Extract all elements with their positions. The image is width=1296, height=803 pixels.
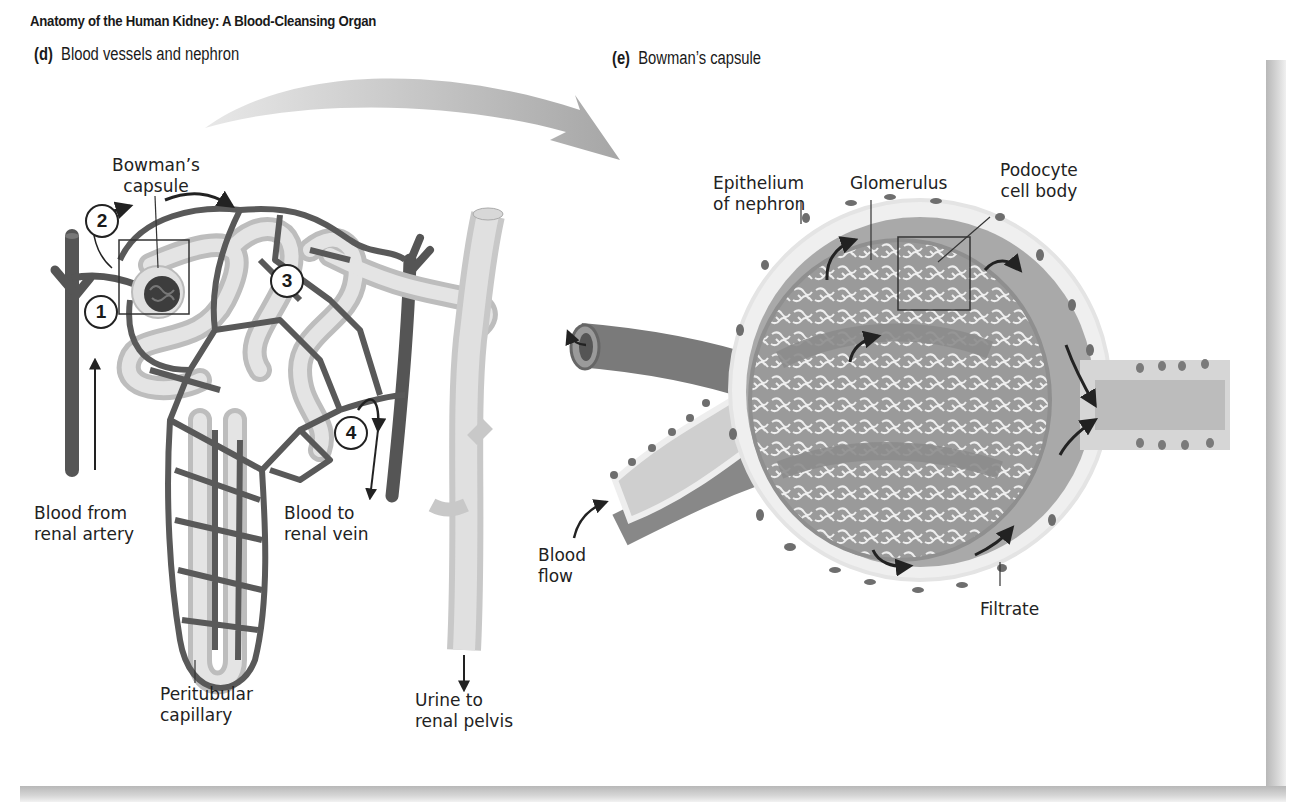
bowmans-capsule-illustration [568, 194, 1230, 593]
label-bowmans-capsule: Bowman’s capsule [112, 155, 200, 197]
kidney-diagram [0, 0, 1266, 786]
label-blood-flow: Blood flow [538, 545, 586, 587]
label-filtrate: Filtrate [980, 599, 1039, 620]
panel-shadow-right [1266, 60, 1286, 800]
label-blood-to-renal-vein: Blood to renal vein [284, 503, 368, 545]
label-glomerulus: Glomerulus [850, 173, 947, 194]
label-blood-from-renal-artery: Blood from renal artery [34, 503, 134, 545]
label-urine-to-renal-pelvis: Urine to renal pelvis [415, 690, 513, 732]
figure-panel: Anatomy of the Human Kidney: A Blood-Cle… [0, 0, 1266, 786]
step-4-badge: 4 [334, 416, 368, 450]
step-3-badge: 3 [270, 264, 304, 298]
label-podocyte-cell-body: Podocyte cell body [1000, 160, 1078, 202]
label-epithelium-of-nephron: Epithelium of nephron [713, 173, 805, 215]
step-2-badge: 2 [85, 204, 119, 238]
label-peritubular-capillary: Peritubular capillary [160, 684, 253, 726]
panel-shadow-bottom [20, 786, 1286, 802]
step-1-badge: 1 [84, 295, 118, 329]
transition-arrow-icon [205, 78, 620, 160]
